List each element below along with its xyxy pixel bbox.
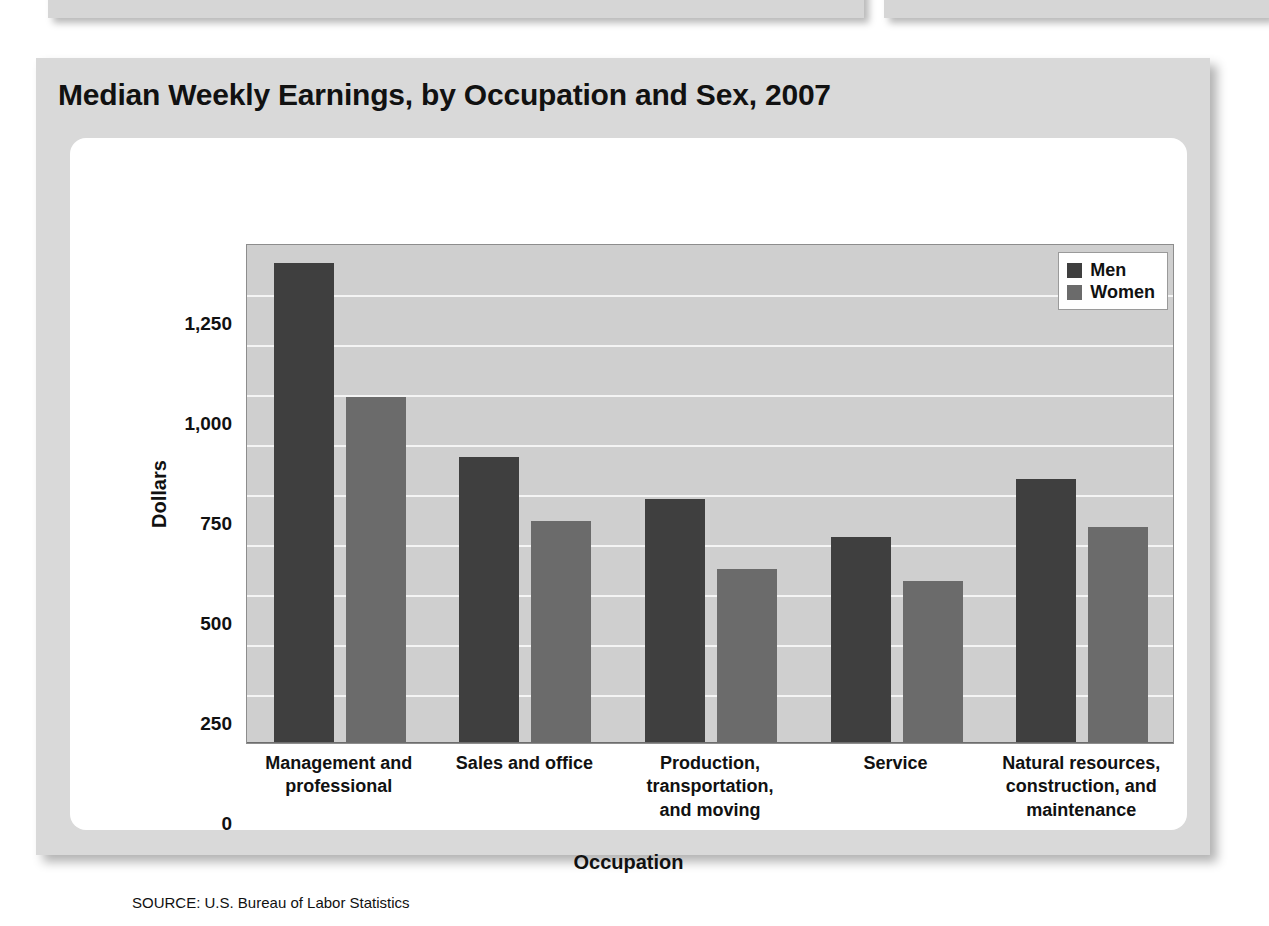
x-axis-category-line: Sales and office [432, 752, 618, 775]
x-axis-category-label: Production,transportation,and moving [617, 752, 803, 822]
x-axis-category-line: transportation, [617, 775, 803, 798]
legend-item: Women [1067, 281, 1155, 303]
x-axis-category-line: Natural resources, [988, 752, 1174, 775]
figure-card: Median Weekly Earnings, by Occupation an… [36, 58, 1210, 855]
legend-label: Men [1090, 260, 1126, 281]
legend: MenWomen [1058, 252, 1168, 310]
x-axis-category-line: maintenance [988, 799, 1174, 822]
x-axis-title: Occupation [70, 851, 1187, 874]
gridline [247, 345, 1173, 347]
x-axis-category-label: Service [803, 752, 989, 775]
page-title: Median Weekly Earnings, by Occupation an… [58, 78, 831, 112]
x-axis-category-label: Management andprofessional [246, 752, 432, 799]
page-element-top-right [884, 0, 1269, 18]
x-axis-category-label: Sales and office [432, 752, 618, 775]
chart-panel: Dollars 02505007501,0001,250 MenWomen Ma… [70, 138, 1187, 830]
legend-swatch-icon [1067, 285, 1082, 300]
x-axis-category-line: professional [246, 775, 432, 798]
legend-swatch-icon [1067, 263, 1082, 278]
bar-women [717, 569, 777, 743]
x-axis-category-label: Natural resources,construction, andmaint… [988, 752, 1174, 822]
plot-wrapper: MenWomen [246, 244, 1174, 744]
x-axis-line [246, 742, 1174, 744]
x-axis-category-line: Management and [246, 752, 432, 775]
bar-women [903, 581, 963, 743]
y-axis-tick-label: 1,000 [184, 413, 232, 435]
source-note: SOURCE: U.S. Bureau of Labor Statistics [132, 894, 410, 911]
x-axis-category-line: Service [803, 752, 989, 775]
bar-women [346, 397, 406, 743]
bar-men [831, 537, 891, 743]
y-axis-tick-label: 750 [200, 513, 232, 535]
y-axis-tick-label: 250 [200, 713, 232, 735]
x-axis-category-line: and moving [617, 799, 803, 822]
bar-men [1016, 479, 1076, 743]
plot-area [246, 244, 1174, 744]
y-axis-tick-label: 1,250 [184, 313, 232, 335]
y-axis-tick-label: 500 [200, 613, 232, 635]
bar-men [459, 457, 519, 743]
gridline [247, 295, 1173, 297]
y-axis-title: Dollars [148, 460, 171, 528]
bar-men [645, 499, 705, 743]
bar-women [1088, 527, 1148, 743]
bar-women [531, 521, 591, 743]
bar-men [274, 263, 334, 743]
legend-label: Women [1090, 282, 1155, 303]
x-axis-category-line: Production, [617, 752, 803, 775]
x-axis-category-line: construction, and [988, 775, 1174, 798]
page-element-top-left [48, 0, 864, 18]
legend-item: Men [1067, 259, 1155, 281]
y-axis-tick-label: 0 [221, 813, 232, 835]
